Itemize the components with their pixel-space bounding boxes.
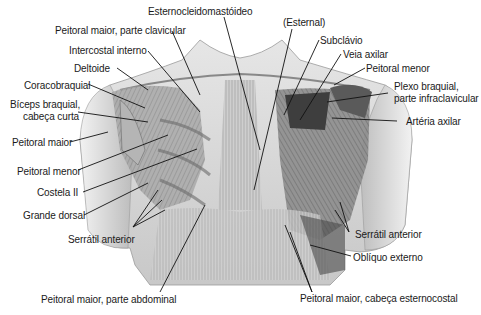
anatomy-figure: Esternocleidomastóideo Peitoral maior, p… [0, 0, 481, 315]
label-esternal: (Esternal) [283, 17, 325, 28]
label-obliquo-externo: Oblíquo externo [353, 252, 423, 263]
label-biceps-line2: cabeça curta [23, 111, 79, 122]
label-esternocleidomastoideo: Esternocleidomastóideo [148, 6, 253, 17]
label-peitoral-maior: Peitoral maior [12, 137, 72, 148]
label-peitoral-maior-clavicular: Peitoral maior, parte clavicular [55, 25, 186, 36]
label-serratil-anterior-right: Serrátil anterior [355, 229, 422, 240]
label-grande-dorsal: Grande dorsal [23, 210, 85, 221]
label-peitoral-maior-abdominal: Peitoral maior, parte abdominal [41, 294, 176, 305]
label-costela-ii: Costela II [37, 187, 78, 198]
label-peitoral-maior-esternocostal: Peitoral maior, cabeça esternocostal [300, 293, 458, 304]
label-serratil-anterior-left: Serrátil anterior [68, 234, 135, 245]
label-veia-axilar: Veia axilar [343, 49, 388, 60]
label-deltoide: Deltoide [74, 63, 110, 74]
label-arteria-axilar: Artéria axilar [406, 116, 461, 127]
label-intercostal-interno: Intercostal interno [69, 45, 147, 56]
label-peitoral-menor-right: Peitoral menor [366, 63, 430, 74]
label-peitoral-menor-left: Peitoral menor [17, 166, 81, 177]
label-coracobraquial: Coracobraquial [24, 80, 90, 91]
label-plexo-line2: parte infraclavicular [394, 93, 479, 104]
label-subclavio: Subclávio [320, 35, 362, 46]
label-plexo-line1: Plexo braquial, [394, 81, 459, 92]
label-biceps-line1: Bíceps braquial, [10, 99, 80, 110]
